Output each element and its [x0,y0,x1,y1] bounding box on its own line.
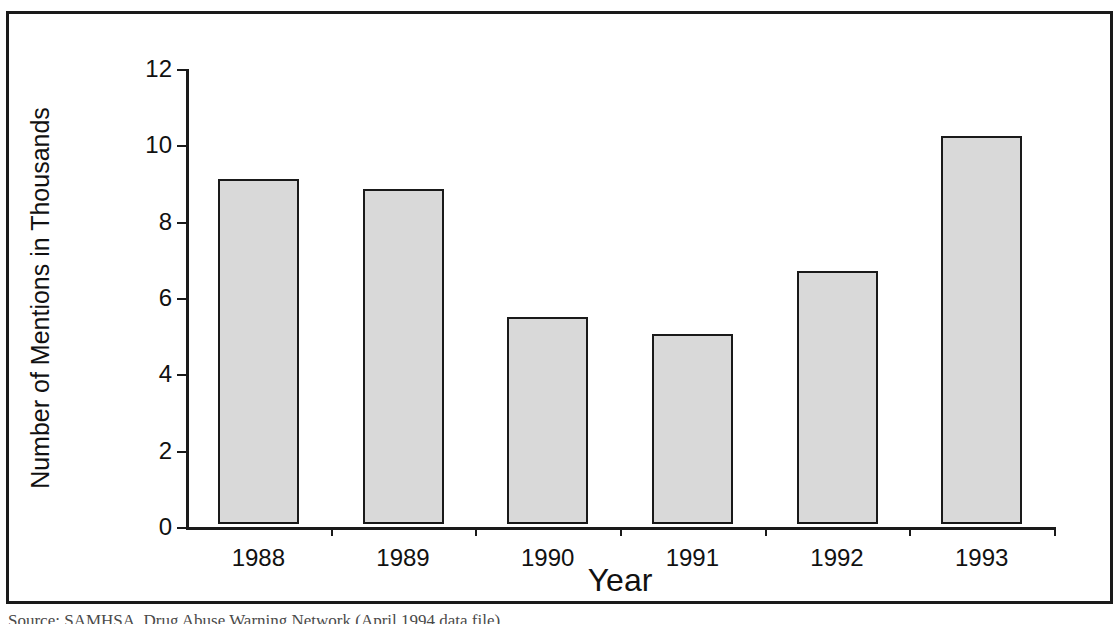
plot-area: 024681012 198819891990199119921993 [186,69,1054,527]
x-tick-mark [475,527,477,536]
y-tick-mark [177,298,186,300]
x-tick-mark [331,527,333,536]
y-tick-mark [177,69,186,71]
y-tick-label: 12 [145,57,172,81]
y-tick-label: 4 [159,362,172,386]
bar-1993 [941,136,1022,524]
y-tick-mark [177,374,186,376]
y-axis-title: Number of Mentions in Thousands [28,107,53,489]
source-caption: Source: SAMHSA, Drug Abuse Warning Netwo… [8,612,500,624]
bar-1989 [363,189,444,524]
y-tick-mark [177,527,186,529]
y-tick-mark [177,451,186,453]
y-tick-mark [177,222,186,224]
y-tick-mark [177,145,186,147]
y-tick-label: 2 [159,439,172,463]
y-tick-label: 8 [159,210,172,234]
y-tick-label: 10 [145,133,172,157]
y-axis-spine [186,69,189,528]
y-tick-label: 0 [159,515,172,539]
y-tick-label: 6 [159,286,172,310]
x-axis-title: Year [186,564,1054,596]
x-tick-mark [620,527,622,536]
x-tick-mark [1054,527,1056,536]
figure-frame: 024681012 198819891990199119921993 Numbe… [6,11,1113,604]
bar-1988 [218,179,299,524]
bar-1991 [652,334,733,524]
bar-1990 [507,317,588,524]
figure-page: 024681012 198819891990199119921993 Numbe… [0,0,1120,624]
x-tick-mark [909,527,911,536]
bar-1992 [797,271,878,524]
x-tick-mark [765,527,767,536]
